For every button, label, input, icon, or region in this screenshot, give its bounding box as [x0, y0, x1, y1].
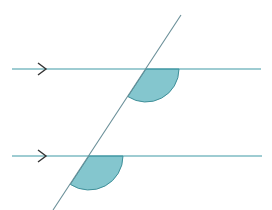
- angle-bottom: [70, 156, 123, 190]
- shaded-angle-bottom: [70, 156, 123, 190]
- transversal-line: [53, 15, 181, 210]
- parallel-lines-diagram: [0, 0, 272, 210]
- shaded-angle-top: [128, 69, 179, 102]
- angle-top: [128, 69, 179, 102]
